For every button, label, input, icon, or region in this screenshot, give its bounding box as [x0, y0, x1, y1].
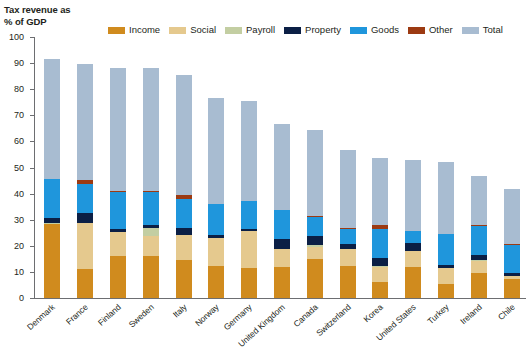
bar-chile[interactable]: [504, 189, 520, 298]
x-axis-label-denmark: Denmark: [25, 302, 57, 332]
x-axis-label-sweden: Sweden: [126, 302, 155, 330]
bar-united-states[interactable]: [405, 160, 421, 298]
y-axis-tick: 70: [30, 115, 34, 116]
legend-item-other[interactable]: Other: [408, 25, 453, 35]
bar-ireland[interactable]: [471, 176, 487, 298]
bar-segment-other: [176, 195, 192, 199]
bar-finland[interactable]: [110, 68, 126, 298]
y-axis-tick-label: 30: [14, 215, 24, 224]
bar-segment-goods: [340, 229, 356, 245]
bar-segment-income: [504, 279, 520, 298]
y-axis-tick-label: 90: [14, 59, 24, 68]
legend-label: Goods: [371, 25, 399, 35]
y-axis-tick: 20: [30, 246, 34, 247]
bar-segment-income: [77, 269, 93, 298]
y-axis-tick: 100: [30, 37, 34, 38]
x-axis-line: [34, 298, 526, 299]
bar-segment-other: [504, 244, 520, 245]
bar-segment-goods: [504, 244, 520, 273]
legend-swatch-total-icon: [462, 27, 479, 34]
legend-item-property[interactable]: Property: [284, 25, 341, 35]
bar-segment-social: [77, 223, 93, 269]
bar-france[interactable]: [77, 64, 93, 298]
bar-germany[interactable]: [241, 101, 257, 298]
y-axis-tick-label: 100: [9, 33, 24, 42]
y-axis-tick-label: 10: [14, 267, 24, 276]
bar-segment-other: [307, 216, 323, 217]
bar-segment-social: [504, 276, 520, 280]
x-axis-label-ireland: Ireland: [458, 302, 483, 326]
x-axis-label-norway: Norway: [193, 302, 221, 328]
bar-turkey[interactable]: [438, 162, 454, 298]
bar-segment-property: [176, 228, 192, 234]
legend-item-social[interactable]: Social: [169, 25, 216, 35]
bar-segment-income: [176, 260, 192, 298]
legend-swatch-social-icon: [169, 27, 186, 34]
bar-segment-social: [340, 249, 356, 265]
bar-segment-goods: [274, 210, 290, 238]
legend-swatch-income-icon: [108, 27, 125, 34]
bar-segment-property: [44, 218, 60, 223]
legend-swatch-other-icon: [408, 27, 425, 34]
x-axis-label-korea: Korea: [362, 302, 385, 324]
legend-swatch-payroll-icon: [225, 27, 242, 34]
legend-swatch-property-icon: [284, 27, 301, 34]
bar-sweden[interactable]: [143, 68, 159, 298]
bar-segment-other: [77, 180, 93, 184]
bar-segment-social: [274, 249, 290, 266]
bar-segment-social: [307, 247, 323, 260]
y-axis-tick-label: 40: [14, 189, 24, 198]
bar-segment-income: [438, 284, 454, 298]
bar-segment-goods: [241, 201, 257, 229]
y-axis-tick: 30: [30, 220, 34, 221]
bar-segment-income: [471, 273, 487, 298]
bar-united-kingdom[interactable]: [274, 124, 290, 298]
legend-item-income[interactable]: Income: [108, 25, 160, 35]
y-axis-tick: 50: [30, 168, 34, 169]
legend-item-payroll[interactable]: Payroll: [225, 25, 275, 35]
bar-segment-property: [274, 239, 290, 250]
bar-segment-property: [208, 235, 224, 238]
bar-segment-property: [405, 243, 421, 251]
bar-segment-property: [471, 255, 487, 260]
bar-segment-income: [143, 256, 159, 298]
bar-norway[interactable]: [208, 98, 224, 298]
bar-segment-goods: [77, 184, 93, 213]
bar-segment-income: [110, 256, 126, 298]
bar-segment-social: [405, 251, 421, 267]
bar-segment-goods: [44, 179, 60, 218]
y-axis-tick-label: 60: [14, 137, 24, 146]
bar-segment-social: [176, 235, 192, 261]
bar-segment-goods: [307, 217, 323, 237]
bar-segment-social: [208, 238, 224, 267]
chart-legend: IncomeSocialPayrollPropertyGoodsOtherTot…: [108, 25, 512, 35]
legend-item-goods[interactable]: Goods: [350, 25, 399, 35]
legend-label: Total: [483, 25, 503, 35]
bar-segment-income: [340, 266, 356, 298]
legend-item-total[interactable]: Total: [462, 25, 503, 35]
legend-label: Other: [429, 25, 453, 35]
bar-segment-other: [340, 228, 356, 229]
bar-korea[interactable]: [372, 158, 388, 298]
bar-segment-payroll: [307, 245, 323, 247]
bar-segment-income: [372, 282, 388, 298]
bar-segment-payroll: [44, 223, 60, 224]
y-axis-tick-label: 50: [14, 163, 24, 172]
bar-italy[interactable]: [176, 75, 192, 298]
legend-label: Payroll: [246, 25, 275, 35]
x-axis-label-chile: Chile: [496, 302, 517, 322]
y-axis-tick-label: 20: [14, 241, 24, 250]
bar-segment-property: [307, 236, 323, 245]
bar-switzerland[interactable]: [340, 150, 356, 298]
bar-segment-social: [471, 260, 487, 272]
bar-segment-property: [438, 265, 454, 268]
bar-canada[interactable]: [307, 130, 323, 298]
bar-segment-property: [504, 273, 520, 275]
chart-container: Tax revenue as % of GDP IncomeSocialPayr…: [0, 0, 530, 353]
bar-segment-goods: [110, 192, 126, 229]
bar-denmark[interactable]: [44, 59, 60, 298]
y-axis-tick: 60: [30, 141, 34, 142]
bar-segment-goods: [471, 225, 487, 255]
legend-swatch-goods-icon: [350, 27, 367, 34]
bar-segment-goods: [176, 199, 192, 228]
